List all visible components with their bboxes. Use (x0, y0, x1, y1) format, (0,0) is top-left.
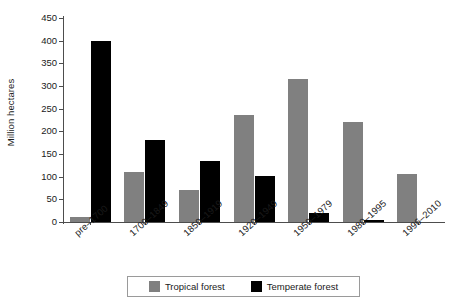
y-axis-tick-label: 150 (41, 147, 57, 160)
y-axis-tick-label: 300 (41, 79, 57, 92)
legend-item: Temperate forest (251, 281, 338, 292)
y-axis-tick-label: 400 (41, 34, 57, 47)
bar-tropical-forest (343, 122, 363, 222)
legend-item: Tropical forest (149, 281, 225, 292)
y-axis-tick: 100 (0, 177, 63, 178)
legend-swatch-icon (149, 281, 160, 292)
y-axis-tick: 400 (0, 41, 63, 42)
y-axis-tick-label: 450 (41, 11, 57, 24)
y-axis-tick: 200 (0, 131, 63, 132)
legend-swatch-icon (251, 281, 262, 292)
y-axis-tick-label: 350 (41, 56, 57, 69)
bar-group (288, 18, 329, 222)
bar-groups (63, 18, 445, 222)
x-axis-labels: pre–17001700–18491850–19191920–19491950–… (63, 224, 445, 274)
y-axis-tick: 150 (0, 154, 63, 155)
legend-item-label: Temperate forest (267, 281, 338, 292)
y-axis-tick: 250 (0, 109, 63, 110)
bar-temperate-forest (91, 41, 111, 222)
y-axis-tick: 300 (0, 86, 63, 87)
y-axis-tick: 50 (0, 199, 63, 200)
bar-chart: Million hectares 05010015020025030035040… (0, 0, 461, 305)
bar-tropical-forest (124, 172, 144, 222)
bar-tropical-forest (288, 79, 308, 222)
y-axis-tick-label: 0 (52, 215, 57, 228)
bar-group (343, 18, 384, 222)
bar-group (70, 18, 111, 222)
bar-group (234, 18, 275, 222)
y-axis-tick: 350 (0, 63, 63, 64)
chart-legend: Tropical forestTemperate forest (127, 276, 360, 297)
y-axis-tick-label: 200 (41, 124, 57, 137)
bar-group (179, 18, 220, 222)
y-axis-tick-label: 50 (46, 192, 57, 205)
bar-tropical-forest (397, 174, 417, 222)
bar-tropical-forest (234, 115, 254, 222)
y-axis-tick-label: 250 (41, 102, 57, 115)
y-axis-tick: 0 (0, 222, 63, 223)
legend-item-label: Tropical forest (165, 281, 225, 292)
y-axis-tick-label: 100 (41, 170, 57, 183)
bar-group (397, 18, 438, 222)
y-axis-tick: 450 (0, 18, 63, 19)
bar-group (124, 18, 165, 222)
y-axis-ticks: 050100150200250300350400450 (0, 0, 63, 305)
